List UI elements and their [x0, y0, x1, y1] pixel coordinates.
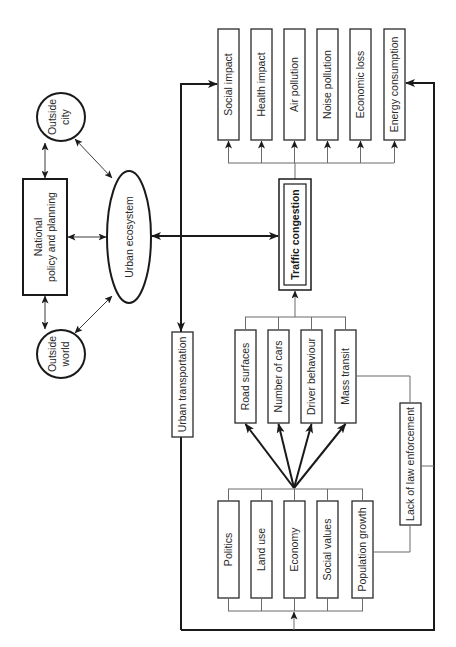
national-policy-node: National policy and planning [23, 179, 67, 295]
root-cause-node-politics: Politics [218, 489, 239, 611]
direct-cause-label: Number of cars [272, 341, 284, 413]
root-cause-node-land-use: Land use [251, 489, 272, 611]
outside-world-node: Outside world [37, 330, 85, 378]
effect-node-energy-consumption: Energy consumption [384, 29, 405, 163]
outside-world-label-1: Outside [46, 336, 58, 372]
effect-label: Energy consumption [388, 36, 400, 132]
root-cause-node-population-growth: Population growth [352, 489, 373, 611]
direct-cause-label: Driver behaviour [305, 337, 317, 415]
urban-ecosystem-label: Urban ecosystem [123, 196, 135, 278]
urban-ecosystem-node: Urban ecosystem [107, 171, 151, 303]
outside-city-node: Outside city [37, 93, 85, 141]
effect-node-economic-loss: Economic loss [350, 29, 371, 163]
arrow-world-ecosystem [75, 296, 112, 333]
root-cause-node-economy: Economy [284, 489, 305, 611]
effect-label: Health impact [255, 52, 267, 116]
lack-of-law-enforcement-label: Lack of law enforcement [404, 407, 416, 521]
population-to-enforcement-line [373, 525, 410, 552]
outside-city-label-2: city [59, 108, 71, 125]
effect-label: Air pollution [288, 57, 300, 112]
root-cause-label: Politics [222, 533, 234, 566]
effect-node-noise-pollution: Noise pollution [317, 29, 338, 163]
effect-node-air-pollution: Air pollution [284, 29, 305, 163]
national-policy-label-1: National [32, 218, 44, 257]
effect-label: Economic loss [354, 51, 366, 119]
direct-cause-node-number-of-cars: Number of cars [268, 317, 289, 423]
direct-cause-node-road-surfaces: Road surfaces [235, 317, 256, 423]
direct-cause-label: Road surfaces [239, 343, 251, 411]
traffic-congestion-diagram: Outside city Outside world National poli… [0, 0, 456, 647]
effect-node-health-impact: Health impact [251, 29, 272, 163]
national-policy-label-2: policy and planning [45, 192, 57, 282]
effect-label: Noise pollution [321, 50, 333, 119]
lack-of-law-enforcement-node: Lack of law enforcement [400, 403, 421, 525]
direct-causes-group: Road surfacesNumber of carsDriver behavi… [235, 317, 356, 423]
arrow-city-ecosystem [75, 139, 112, 178]
urban-transportation-node: Urban transportation [172, 332, 193, 437]
effect-node-social-impact: Social impact [218, 29, 239, 163]
direct-cause-label: Mass transit [339, 348, 351, 405]
traffic-congestion-node: Traffic congestion [279, 179, 311, 290]
traffic-congestion-label: Traffic congestion [289, 189, 301, 279]
root-causes-group: PoliticsLand useEconomySocial valuesPopu… [218, 489, 373, 611]
mass-transit-to-enforcement-line [356, 376, 410, 403]
direct-cause-node-driver-behaviour: Driver behaviour [301, 317, 322, 423]
root-cause-label: Land use [255, 528, 267, 571]
fan-arrows-group [246, 424, 346, 488]
direct-cause-node-mass-transit: Mass transit [335, 317, 356, 423]
effect-label: Social impact [222, 53, 234, 116]
effects-group: Social impactHealth impactAir pollutionN… [218, 29, 405, 163]
root-cause-label: Population growth [356, 507, 368, 591]
root-cause-label: Social values [321, 519, 333, 581]
outside-city-label-1: Outside [46, 99, 58, 135]
root-cause-label: Economy [288, 527, 300, 572]
root-cause-node-social-values: Social values [317, 489, 338, 611]
outside-world-label-2: world [59, 341, 71, 367]
urban-transportation-label: Urban transportation [176, 336, 188, 432]
